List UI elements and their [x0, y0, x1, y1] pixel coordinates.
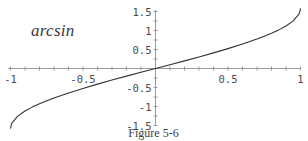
y-axis-tick-label: -0.5	[116, 83, 152, 94]
y-axis-tick-label: 0.5	[116, 45, 152, 56]
y-axis-tick-label: -1	[116, 102, 152, 113]
x-axis-tick-label: -0.5	[66, 74, 100, 85]
x-axis-tick-label: -1	[0, 74, 28, 85]
figure-caption: Figure 5-6	[0, 126, 307, 141]
figure-arcsin: arcsin -1-0.50.511.510.5-0.5-1-1.5 Figur…	[0, 0, 307, 141]
x-axis-tick-label: 1	[284, 74, 308, 85]
function-label: arcsin	[31, 21, 75, 41]
y-axis-tick-label: 1	[116, 26, 152, 37]
y-axis-tick-label: 1.5	[116, 7, 152, 18]
x-axis-tick-label: 0.5	[211, 74, 245, 85]
